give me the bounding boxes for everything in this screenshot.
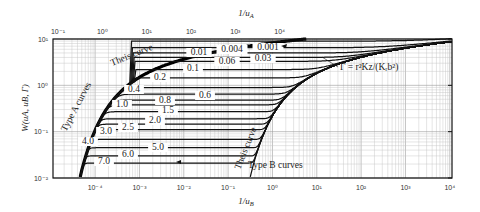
type-curve-chart: 0.0010.0040.010.030.060.10.20.40.60.81.0… xyxy=(0,0,480,212)
curve-label-0.004: 0.004 xyxy=(221,44,243,54)
curve-label-0.1: 0.1 xyxy=(187,63,199,73)
curve-label-5.0: 5.0 xyxy=(152,142,164,152)
x-bottom-tick-label: 10¹ xyxy=(312,184,323,191)
curve-label-4.0: 4.0 xyxy=(82,136,94,146)
curve-label-6.0: 6.0 xyxy=(122,149,134,159)
curve-label-1.0: 1.0 xyxy=(116,99,128,109)
x-top-tick-label: 10² xyxy=(186,28,197,35)
curve-label-2.0: 2.0 xyxy=(149,115,161,125)
curve-label-3.0: 3.0 xyxy=(100,126,112,136)
x-top-tick-label: 10⁰ xyxy=(97,28,108,35)
x-bottom-tick-label: 10⁰ xyxy=(267,184,278,191)
curve-label-0.6: 0.6 xyxy=(199,90,211,100)
x-bottom-tick-label: 10⁻³ xyxy=(132,184,147,191)
curve-label-0.2: 0.2 xyxy=(154,72,166,82)
x-bottom-tick-label: 10³ xyxy=(400,184,411,191)
y-tick-label: 10⁰ xyxy=(37,82,48,89)
x-top-tick-label: 10¹ xyxy=(142,28,153,35)
type-b-label: Type B curves xyxy=(248,160,303,170)
gamma-formula-label: Γ = r²Kz/(Kᵣb²) xyxy=(340,62,398,73)
x-bottom-tick-label: 10⁻⁴ xyxy=(88,184,103,191)
x-bottom-tick-label: 10² xyxy=(356,184,367,191)
curve-label-0.4: 0.4 xyxy=(128,84,140,94)
curve-label-0.8: 0.8 xyxy=(159,95,171,105)
curve-label-0.06: 0.06 xyxy=(219,56,236,66)
x-bottom-tick-label: 10⁻² xyxy=(177,184,192,191)
curve-label-0.01: 0.01 xyxy=(191,47,208,57)
curve-label-0.001: 0.001 xyxy=(257,42,279,52)
y-tick-label: 10⁻¹ xyxy=(34,128,49,135)
y-axis-title: W(uA, uB, Γ) xyxy=(20,84,30,132)
x-top-axis-title: 1/uA xyxy=(238,8,254,19)
y-tick-label: 10¹ xyxy=(38,36,49,43)
x-top-tick-label: 10⁻¹ xyxy=(51,28,66,35)
x-top-tick-label: 10⁴ xyxy=(274,28,285,35)
curve-label-7.0: 7.0 xyxy=(98,156,110,166)
x-bottom-axis-title: 1/uB xyxy=(238,196,254,207)
curve-label-0.03: 0.03 xyxy=(255,53,272,63)
y-tick-label: 10⁻² xyxy=(34,175,49,182)
x-top-tick-label: 10³ xyxy=(230,28,241,35)
curve-label-2.5: 2.5 xyxy=(122,122,134,132)
x-bottom-tick-label: 10⁻¹ xyxy=(221,184,236,191)
x-bottom-tick-label: 10⁴ xyxy=(444,184,455,191)
curve-label-1.5: 1.5 xyxy=(162,105,174,115)
